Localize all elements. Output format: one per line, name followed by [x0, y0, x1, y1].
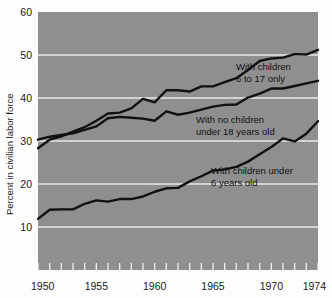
- y-tick-label-10: 10: [20, 221, 32, 233]
- x-tick-label-1960: 1960: [143, 280, 167, 292]
- chart-figure: 102030405060 195019551960196519701974 Pe…: [0, 0, 332, 298]
- y-axis-title: Percent in civilian labor force: [4, 94, 15, 215]
- annotation-line-1: With children: [236, 61, 291, 72]
- annotation-line-1: With children under: [211, 165, 293, 176]
- y-tick-label-60: 60: [20, 6, 32, 18]
- y-tick-label-40: 40: [20, 92, 32, 104]
- y-tick-label-20: 20: [20, 178, 32, 190]
- annotation-children-6-to-17: With children 6 to 17 only: [236, 61, 291, 84]
- y-tick-label-50: 50: [20, 49, 32, 61]
- x-tick-label-1950: 1950: [31, 280, 55, 292]
- annotation-line-2: 6 to 17 only: [236, 73, 285, 84]
- x-tick-label-1965: 1965: [201, 280, 225, 292]
- chart-canvas: 102030405060 195019551960196519701974 Pe…: [0, 0, 332, 298]
- x-tick-label-1955: 1955: [85, 280, 109, 292]
- annotation-line-2: under 18 years old: [196, 126, 275, 137]
- y-tick-label-30: 30: [20, 135, 32, 147]
- annotation-line-2: 6 years old: [211, 177, 257, 188]
- x-tick-label-1974: 1974: [303, 280, 327, 292]
- annotation-line-1: With no children: [196, 114, 264, 125]
- x-tick-label-1970: 1970: [260, 280, 284, 292]
- annotation-no-children-under-18: With no children under 18 years old: [196, 114, 275, 137]
